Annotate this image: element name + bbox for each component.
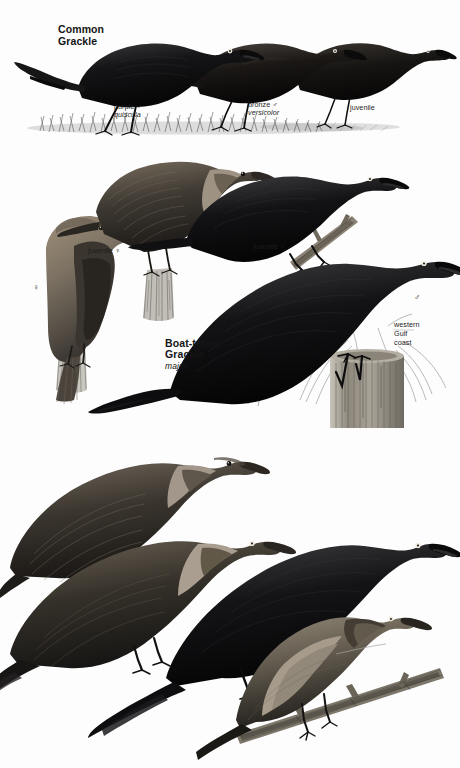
label-purple-quiscula-sci: quiscula xyxy=(114,111,142,120)
section-great-tailed-grackle: juvenile ♀ Great-tailed Grackle ♀ ♂ west… xyxy=(0,428,460,768)
label-boat-juvenile-male: juvenile ♂ xyxy=(253,234,285,251)
label-bronze-versicolor-sci: versicolor xyxy=(248,109,279,118)
label-boat-juvenile-female-text: juvenile ♀ xyxy=(88,246,120,255)
label-western-gulf-coast: western Gulf coast xyxy=(394,320,420,347)
species-title-common-grackle: Common Grackle xyxy=(58,24,104,47)
species-title-boat-tailed-text: Boat-tailed Grackle xyxy=(165,337,220,361)
label-bronze-versicolor: bronze ♂ versicolor xyxy=(248,92,279,126)
great-tailed-grackle-illustration xyxy=(0,428,460,768)
species-title-boat-tailed-grackle: Boat-tailed Grackle major xyxy=(165,326,220,382)
symbol-boat-female: ♀ xyxy=(33,283,39,291)
ground-grass-strip xyxy=(27,112,400,135)
label-common-juvenile-text: juvenile xyxy=(350,103,375,112)
label-boat-juvenile-male-text: juvenile ♂ xyxy=(253,242,285,251)
species-subspecies-major: major xyxy=(165,361,220,371)
label-purple-quiscula: purple ♂ quiscula xyxy=(114,94,142,128)
section-boat-tailed-grackle: juvenile ♀ juvenile ♂ ♀ ♂ Boat-tailed Gr… xyxy=(0,150,460,428)
section-common-grackle: Common Grackle purple ♂ quiscula bronze … xyxy=(0,0,460,150)
field-guide-plate: Common Grackle purple ♂ quiscula bronze … xyxy=(0,0,460,768)
boat-tailed-grackle-illustration xyxy=(0,150,460,428)
label-common-juvenile: juvenile xyxy=(350,95,375,112)
symbol-boat-male: ♂ xyxy=(414,293,420,301)
label-boat-juvenile-female: juvenile ♀ xyxy=(88,238,120,255)
